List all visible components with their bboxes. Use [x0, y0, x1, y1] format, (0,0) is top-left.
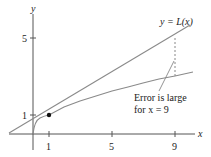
y-tick-label-5: 5 — [22, 33, 27, 44]
tangent-line — [9, 25, 190, 133]
x-tick-label-9: 9 — [172, 141, 177, 152]
line-label: y = L(x) — [159, 16, 194, 28]
x-tick-label-5: 5 — [109, 141, 114, 152]
x-tick-label-1: 1 — [46, 141, 51, 152]
chart: y x 1 5 9 1 5 y = L(x) Error is large fo… — [0, 0, 211, 157]
note-line-2: for x = 9 — [134, 104, 169, 115]
sqrt-curve — [33, 72, 193, 134]
tangent-point — [47, 113, 51, 117]
y-axis-label: y — [30, 3, 36, 14]
y-tick-label-1: 1 — [22, 110, 27, 121]
note-line-1: Error is large — [134, 92, 187, 103]
x-axis-label: x — [197, 128, 203, 139]
annotation-pointer — [159, 61, 174, 91]
